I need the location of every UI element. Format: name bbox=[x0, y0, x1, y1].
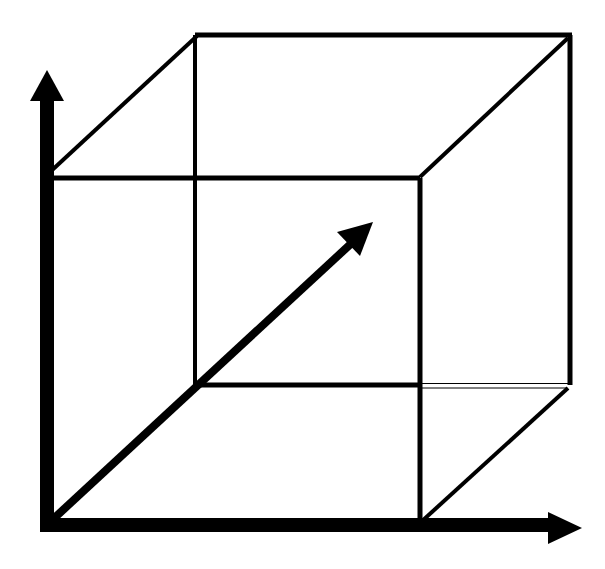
depth-edge-top-right bbox=[420, 38, 568, 177]
y-axis bbox=[30, 70, 64, 530]
vector-shaft bbox=[50, 240, 355, 522]
x-axis bbox=[40, 512, 582, 544]
depth-edge-top-left bbox=[50, 36, 197, 172]
y-axis-arrowhead-icon bbox=[30, 70, 64, 101]
x-axis-arrowhead-icon bbox=[548, 512, 582, 544]
cube-axes-diagram bbox=[0, 0, 605, 569]
depth-edge-bottom-right bbox=[421, 388, 568, 522]
x-axis-shaft bbox=[40, 518, 550, 532]
vector-arrow bbox=[50, 222, 373, 522]
y-axis-shaft bbox=[40, 100, 54, 530]
